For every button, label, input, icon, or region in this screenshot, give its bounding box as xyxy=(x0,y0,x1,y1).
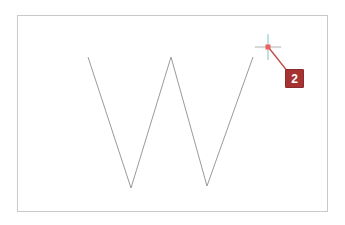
annotation-badge-label: 2 xyxy=(291,73,298,85)
annotation-badge-2[interactable]: 2 xyxy=(285,69,304,88)
drawing-canvas[interactable] xyxy=(17,15,328,212)
app-root: 2 xyxy=(0,0,345,225)
